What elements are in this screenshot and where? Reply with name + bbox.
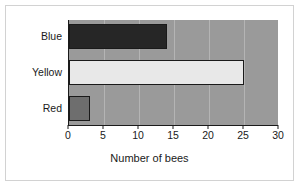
x-tick-label: 30 (272, 129, 284, 141)
plot-wrapper: BlueYellowRed (68, 20, 278, 126)
x-tick-label: 5 (100, 129, 106, 141)
bar-yellow (69, 60, 244, 85)
category-label-red: Red (4, 96, 62, 121)
x-tick-label: 10 (132, 129, 144, 141)
x-axis-title: Number of bees (6, 152, 293, 164)
chart-figure: BlueYellowRed 051015202530 Number of bee… (5, 5, 294, 181)
bar-red (69, 96, 90, 121)
plot-area (68, 20, 278, 126)
bar-blue (69, 24, 167, 49)
bar-row (69, 96, 90, 121)
x-tick-label: 15 (167, 129, 179, 141)
category-label-yellow: Yellow (4, 60, 62, 85)
x-tick-label: 0 (65, 129, 71, 141)
bar-row (69, 24, 167, 49)
x-axis-ticks: 051015202530 (68, 129, 278, 143)
x-tick-label: 20 (202, 129, 214, 141)
x-tick-label: 25 (237, 129, 249, 141)
gridline (244, 20, 245, 125)
category-label-blue: Blue (4, 24, 62, 49)
bar-row (69, 60, 244, 85)
